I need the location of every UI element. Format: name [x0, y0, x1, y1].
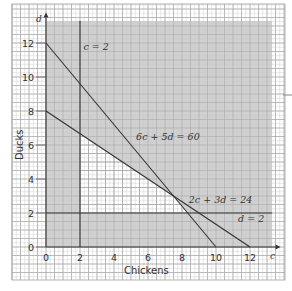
svg-text:8: 8: [179, 252, 185, 263]
svg-text:0: 0: [28, 242, 34, 253]
svg-text:12: 12: [244, 252, 256, 263]
svg-text:8: 8: [28, 106, 34, 117]
svg-text:4: 4: [28, 174, 34, 185]
svg-text:6: 6: [145, 252, 151, 263]
svg-text:6: 6: [28, 140, 34, 151]
svg-text:0: 0: [43, 252, 49, 263]
svg-text:d = 2: d = 2: [238, 213, 264, 224]
svg-text:4: 4: [111, 252, 117, 263]
svg-text:2: 2: [28, 208, 34, 219]
svg-text:c = 2: c = 2: [83, 41, 108, 52]
svg-text:2c + 3d = 24: 2c + 3d = 24: [188, 194, 253, 205]
x-axis-symbol: c: [270, 251, 275, 261]
x-axis-label: Chickens: [124, 265, 169, 276]
y-axis-symbol: d: [36, 14, 42, 24]
svg-text:6c + 5d = 60: 6c + 5d = 60: [136, 131, 200, 142]
linear-programming-chart: 024681012024681012 c = 26c + 5d = 602c +…: [0, 0, 292, 291]
y-axis-label: Ducks: [14, 129, 25, 160]
svg-text:2: 2: [77, 252, 83, 263]
svg-text:12: 12: [22, 38, 34, 49]
svg-text:10: 10: [22, 72, 34, 83]
svg-text:10: 10: [210, 252, 222, 263]
